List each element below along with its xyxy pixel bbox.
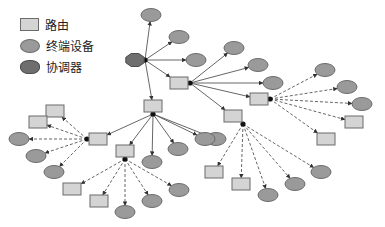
end-device-node — [352, 98, 372, 111]
solid-link — [190, 67, 249, 83]
end-device-icon — [20, 39, 40, 53]
end-device-node — [169, 31, 189, 44]
dashed-link — [47, 125, 87, 139]
end-device-node — [285, 178, 305, 191]
end-device-node — [141, 9, 161, 22]
router-node — [90, 195, 108, 207]
end-device-node — [337, 81, 357, 94]
end-device-node — [44, 166, 64, 179]
end-device-node — [115, 206, 135, 219]
solid-link — [130, 114, 153, 145]
end-device-node — [169, 184, 189, 197]
dashed-link — [270, 99, 345, 120]
end-device-node — [9, 133, 29, 146]
end-device-node — [263, 77, 283, 90]
legend-label-router: 路由 — [45, 16, 69, 33]
end-device-node — [315, 64, 335, 77]
dashed-link — [243, 124, 314, 168]
dashed-link — [243, 124, 290, 178]
solid-link — [152, 114, 153, 156]
end-device-node — [195, 133, 215, 146]
coordinator-icon — [20, 60, 40, 74]
end-device-node — [258, 189, 278, 202]
router-node — [144, 100, 162, 112]
legend-label-end-device: 终端设备 — [46, 37, 94, 54]
end-device-node — [248, 59, 268, 72]
legend-item-coordinator: 协调器 — [20, 56, 94, 77]
solid-link — [145, 42, 172, 60]
router-node — [29, 116, 47, 128]
end-device-node — [142, 195, 162, 208]
solid-link — [145, 21, 150, 60]
router-node — [232, 178, 250, 190]
legend: 路由 终端设备 协调器 — [20, 14, 94, 77]
solid-link — [145, 60, 170, 77]
router-node — [224, 110, 242, 122]
router-node — [345, 116, 363, 128]
dashed-link — [270, 99, 318, 133]
router-icon — [20, 18, 39, 31]
end-device-node — [224, 42, 244, 55]
end-device-node — [168, 143, 188, 156]
coordinator-node — [126, 54, 144, 67]
end-device-node — [186, 54, 206, 67]
solid-link — [145, 60, 152, 100]
end-device-node — [26, 150, 46, 163]
legend-label-coordinator: 协调器 — [46, 58, 82, 75]
end-device-node — [311, 166, 331, 179]
dashed-link — [62, 117, 87, 139]
dashed-link — [59, 139, 87, 167]
dashed-link — [45, 139, 87, 153]
legend-item-router: 路由 — [20, 14, 94, 35]
dashed-link — [81, 159, 125, 184]
router-node — [46, 105, 64, 117]
router-node — [317, 133, 335, 145]
solid-link — [153, 114, 197, 135]
router-node — [170, 77, 188, 89]
router-node — [205, 166, 223, 178]
router-node — [250, 93, 268, 105]
solid-link — [107, 114, 153, 135]
router-node — [89, 133, 107, 145]
router-node — [116, 145, 134, 157]
dashed-link — [103, 159, 125, 195]
zigbee-topology-figure: 路由 终端设备 协调器 — [0, 0, 385, 227]
legend-item-end-device: 终端设备 — [20, 35, 94, 56]
router-node — [63, 183, 81, 195]
end-device-node — [142, 156, 162, 169]
dashed-link — [241, 124, 243, 178]
